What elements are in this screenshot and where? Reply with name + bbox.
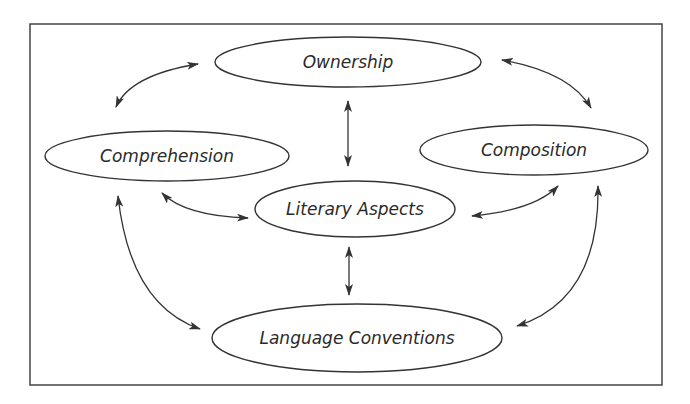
literacy-diagram: Ownership Comprehension Composition Lite…	[0, 0, 690, 404]
arrow-ownership-comprehension	[116, 64, 198, 107]
node-label: Composition	[481, 140, 587, 160]
node-literary-aspects: Literary Aspects	[255, 181, 455, 237]
arrow-composition-literary	[472, 186, 558, 216]
node-label: Language Conventions	[259, 328, 454, 348]
node-comprehension: Comprehension	[45, 131, 289, 181]
arrow-comprehension-conventions	[118, 196, 200, 329]
node-label: Ownership	[303, 52, 394, 72]
node-ownership: Ownership	[215, 37, 481, 87]
node-language-conventions: Language Conventions	[212, 304, 502, 372]
arrow-ownership-composition	[502, 60, 591, 108]
node-label: Comprehension	[100, 146, 234, 166]
arrow-comprehension-literary	[162, 193, 248, 218]
node-label: Literary Aspects	[286, 199, 424, 219]
node-composition: Composition	[420, 125, 648, 175]
arrow-composition-conventions	[517, 186, 598, 326]
